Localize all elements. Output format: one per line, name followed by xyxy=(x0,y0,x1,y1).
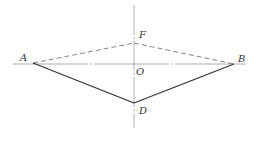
label-B: B xyxy=(237,53,245,64)
segment-AD xyxy=(33,63,134,103)
label-F: F xyxy=(138,29,147,40)
segment-FB xyxy=(134,43,234,64)
label-D: D xyxy=(138,105,147,116)
diagram-svg: A B O F D xyxy=(0,0,256,141)
label-A: A xyxy=(19,52,27,63)
geometry-diagram: A B O F D xyxy=(0,0,256,141)
label-O: O xyxy=(136,66,144,77)
segment-AF xyxy=(33,43,134,63)
segment-DB xyxy=(134,64,234,103)
